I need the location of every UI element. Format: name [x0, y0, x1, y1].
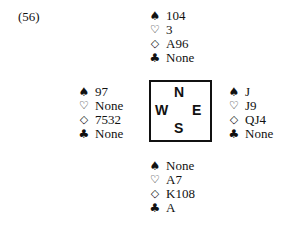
north-spades: ♠104 [148, 9, 194, 23]
east-hand: ♠J ♡J9 ◇QJ4 ♣None [227, 85, 273, 141]
east-clubs: ♣None [227, 127, 273, 141]
south-hearts: ♡A7 [148, 173, 195, 187]
east-spades: ♠J [227, 85, 273, 99]
heart-icon: ♡ [148, 23, 162, 37]
club-icon: ♣ [77, 127, 91, 141]
heart-icon: ♡ [227, 99, 241, 113]
club-icon: ♣ [227, 127, 241, 141]
diamond-icon: ◇ [148, 37, 162, 51]
west-clubs: ♣None [77, 127, 123, 141]
south-hand: ♠None ♡A7 ◇K108 ♣A [148, 159, 195, 215]
diamond-icon: ◇ [227, 113, 241, 127]
heart-icon: ♡ [148, 173, 162, 187]
compass-box: N W E S [149, 80, 212, 142]
compass-west: W [155, 103, 168, 117]
compass-south: S [174, 121, 183, 135]
south-clubs: ♣A [148, 201, 195, 215]
club-icon: ♣ [148, 51, 162, 65]
west-hand: ♠97 ♡None ◇7532 ♣None [77, 85, 123, 141]
spade-icon: ♠ [148, 159, 162, 173]
north-hand: ♠104 ♡3 ◇A96 ♣None [148, 9, 194, 65]
spade-icon: ♠ [148, 9, 162, 23]
east-diamonds: ◇QJ4 [227, 113, 273, 127]
diamond-icon: ◇ [148, 187, 162, 201]
east-hearts: ♡J9 [227, 99, 273, 113]
spade-icon: ♠ [227, 85, 241, 99]
spade-icon: ♠ [77, 85, 91, 99]
south-spades: ♠None [148, 159, 195, 173]
south-diamonds: ◇K108 [148, 187, 195, 201]
problem-number: (56) [18, 9, 40, 25]
compass-north: N [174, 85, 184, 99]
west-diamonds: ◇7532 [77, 113, 123, 127]
north-clubs: ♣None [148, 51, 194, 65]
west-spades: ♠97 [77, 85, 123, 99]
club-icon: ♣ [148, 201, 162, 215]
north-hearts: ♡3 [148, 23, 194, 37]
compass-east: E [192, 103, 201, 117]
west-hearts: ♡None [77, 99, 123, 113]
heart-icon: ♡ [77, 99, 91, 113]
north-diamonds: ◇A96 [148, 37, 194, 51]
diamond-icon: ◇ [77, 113, 91, 127]
